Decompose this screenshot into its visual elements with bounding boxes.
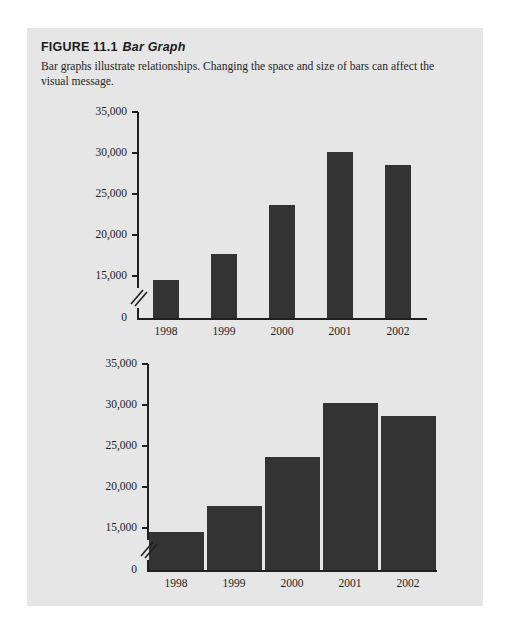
y-axis-tick-label: 30,000 xyxy=(71,146,127,158)
figure-panel: FIGURE 11.1Bar Graph Bar graphs illustra… xyxy=(27,28,483,606)
x-axis-tick-label: 2000 xyxy=(252,325,312,337)
y-axis-break-symbol xyxy=(139,540,159,560)
x-axis-tick-label: 2002 xyxy=(368,325,428,337)
y-axis-tick-label: 35,000 xyxy=(71,105,127,117)
y-axis-tick-label: 15,000 xyxy=(81,521,137,533)
bar xyxy=(153,280,179,318)
bar xyxy=(207,506,262,570)
x-axis-tick-label: 1999 xyxy=(194,325,254,337)
bar xyxy=(269,205,295,318)
y-axis-tick-label: 30,000 xyxy=(81,398,137,410)
bar xyxy=(385,165,411,318)
y-axis-tick xyxy=(142,445,148,447)
figure-number: FIGURE 11.1 xyxy=(41,40,118,54)
bar xyxy=(211,254,237,318)
y-axis-tick-label: 20,000 xyxy=(71,228,127,240)
x-axis-tick-label: 2001 xyxy=(310,325,370,337)
y-axis-tick xyxy=(132,193,138,195)
bar xyxy=(265,457,320,570)
x-axis-line xyxy=(147,570,437,572)
y-axis-tick-label: 25,000 xyxy=(81,439,137,451)
y-axis-tick xyxy=(132,275,138,277)
x-axis-tick-label: 2000 xyxy=(262,577,322,589)
y-axis-tick xyxy=(132,152,138,154)
y-axis-break-symbol xyxy=(129,288,149,308)
y-axis-tick-label: 0 xyxy=(81,563,137,575)
y-axis-tick-label: 35,000 xyxy=(81,357,137,369)
figure-caption-block: FIGURE 11.1Bar Graph Bar graphs illustra… xyxy=(41,40,469,90)
narrow-bars-chart: 35,00030,00025,00020,00015,0000199819992… xyxy=(75,106,445,356)
y-axis-tick-label: 20,000 xyxy=(81,480,137,492)
x-axis-tick-label: 2001 xyxy=(320,577,380,589)
figure-subject: Bar Graph xyxy=(123,40,186,54)
y-axis-tick xyxy=(132,234,138,236)
bar xyxy=(327,152,353,318)
y-axis-tick-label: 25,000 xyxy=(71,187,127,199)
y-axis-tick xyxy=(142,527,148,529)
x-axis-line xyxy=(137,318,427,320)
x-axis-tick-label: 2002 xyxy=(378,577,438,589)
figure-description: Bar graphs illustrate relationships. Cha… xyxy=(41,59,456,90)
y-axis-tick-label: 15,000 xyxy=(71,269,127,281)
x-axis-tick-label: 1998 xyxy=(146,577,206,589)
bar xyxy=(323,403,378,570)
x-axis-tick-label: 1999 xyxy=(204,577,264,589)
y-axis-tick xyxy=(142,486,148,488)
y-axis-tick xyxy=(142,404,148,406)
wide-bars-chart: 35,00030,00025,00020,00015,0000199819992… xyxy=(75,358,445,608)
y-axis-tick xyxy=(142,363,148,365)
y-axis-tick-label: 0 xyxy=(71,311,127,323)
x-axis-tick-label: 1998 xyxy=(136,325,196,337)
figure-title: FIGURE 11.1Bar Graph xyxy=(41,40,469,54)
bar xyxy=(381,416,436,570)
y-axis-tick xyxy=(132,111,138,113)
